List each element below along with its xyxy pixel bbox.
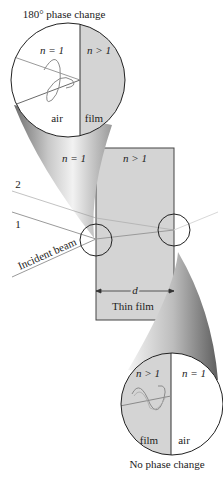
thin-film-interference-diagram: 180° phase change n = 1 n > 1 air film n…	[0, 0, 223, 477]
main-left-index: n = 1	[62, 152, 86, 164]
top-inset-right-index: n > 1	[87, 44, 111, 56]
bottom-inset-right-medium: air	[178, 434, 190, 446]
top-inset-left-medium: air	[51, 112, 63, 124]
ray-1-label: 1	[15, 218, 21, 230]
thickness-label: d	[132, 284, 138, 296]
bottom-inset-left-medium: film	[140, 434, 159, 446]
top-inset-left-index: n = 1	[40, 44, 64, 56]
top-inset-180-phase	[11, 20, 140, 140]
incident-beam-label: Incident beam	[16, 235, 78, 272]
bottom-inset-no-phase	[110, 350, 223, 460]
bottom-inset-right-index: n = 1	[182, 367, 206, 379]
main-film-index: n > 1	[123, 152, 147, 164]
transmitted-ray	[174, 212, 218, 230]
ray-2-label: 2	[15, 178, 21, 190]
thin-film-label: Thin film	[112, 300, 154, 312]
top-inset-right-medium: film	[85, 112, 104, 124]
bottom-caption: No phase change	[129, 458, 204, 470]
top-caption: 180° phase change	[23, 8, 106, 20]
bottom-inset-left-index: n > 1	[136, 367, 160, 379]
